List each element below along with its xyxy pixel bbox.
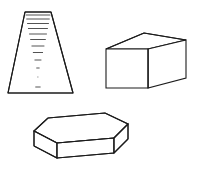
hexagonal-prism-shape (34, 113, 128, 158)
figure-canvas (0, 0, 197, 169)
geometric-solids-illustration (0, 0, 197, 169)
cuboid-front-face (106, 49, 148, 88)
